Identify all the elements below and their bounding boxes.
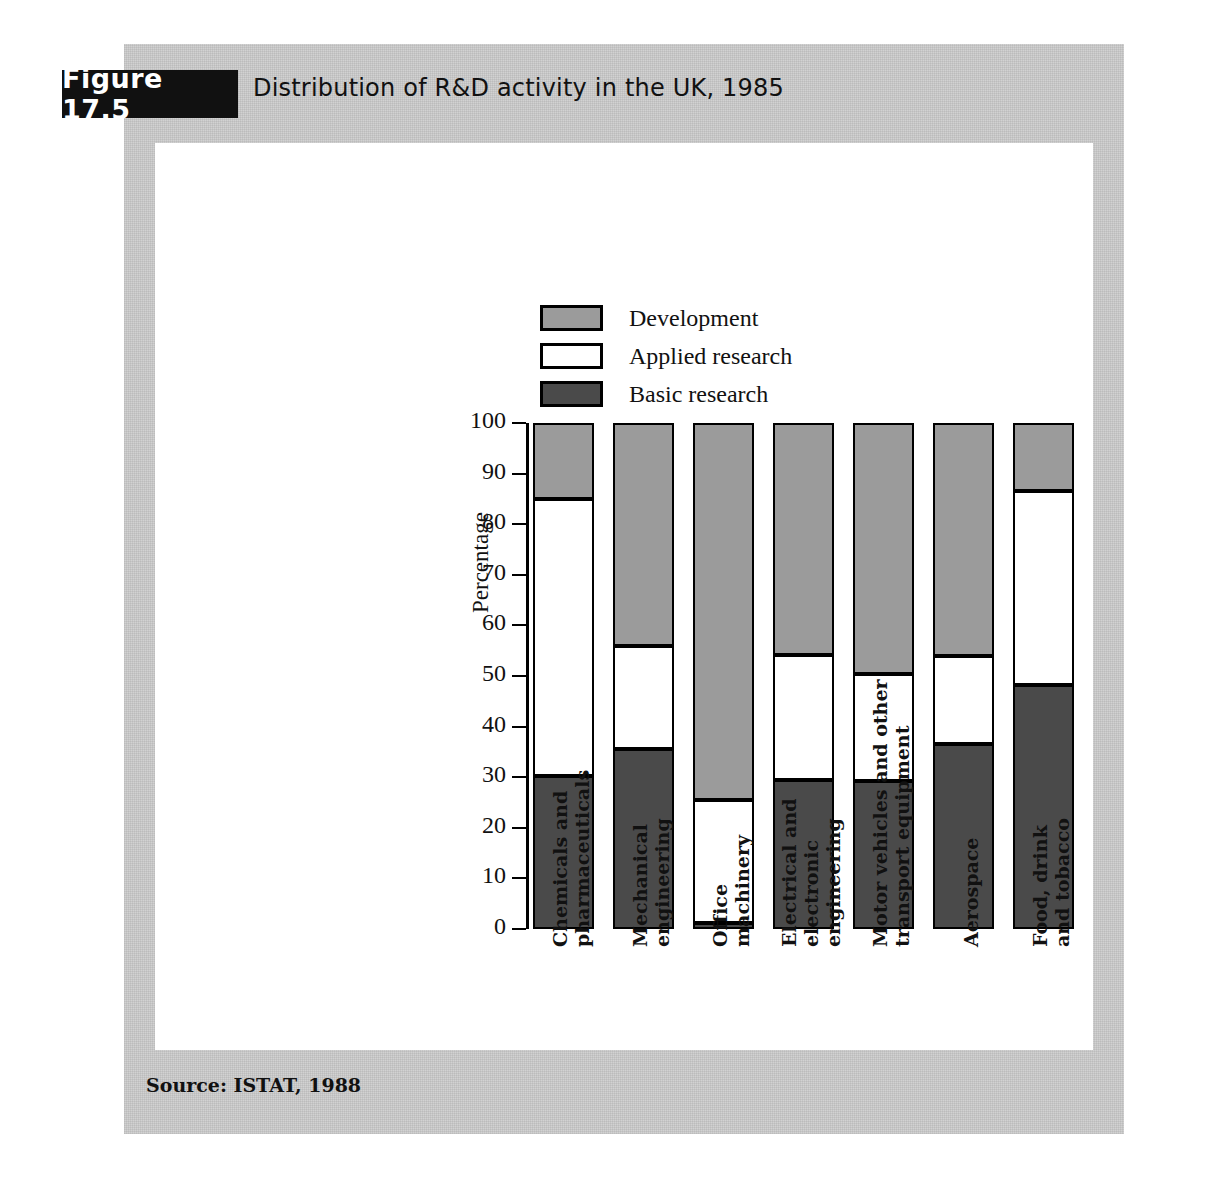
y-axis-line [526, 423, 529, 929]
y-tick-label: 10 [450, 862, 506, 889]
bar-segment-applied-research[interactable] [933, 656, 994, 745]
bar-segment-development[interactable] [533, 423, 594, 499]
figure-number-badge: Figure 17.5 [62, 70, 238, 118]
bar-segment-development[interactable] [1013, 423, 1074, 491]
y-tick-mark [512, 726, 526, 728]
y-tick-mark [512, 928, 526, 930]
y-tick-mark [512, 523, 526, 525]
y-tick-label: 60 [450, 609, 506, 636]
y-tick-mark [512, 422, 526, 424]
chart-card: Development Applied research Basic resea… [155, 143, 1093, 1050]
y-tick-label: 40 [450, 711, 506, 738]
x-axis-label: Motor vehicles and othertransport equipm… [870, 679, 914, 947]
x-axis-label-line: pharmaceuticals [571, 770, 593, 947]
x-axis-label-line: Chemicals and [550, 770, 572, 947]
x-axis-label: Electrical andelectronicengineering [779, 799, 845, 947]
y-tick-label: 50 [450, 660, 506, 687]
bar-segment-development[interactable] [613, 423, 674, 646]
x-axis-label-line: Electrical and [779, 799, 801, 947]
y-tick-label: 30 [450, 761, 506, 788]
bar-segment-development[interactable] [853, 423, 914, 674]
x-axis-label-line: Office [710, 835, 732, 947]
y-tick-mark [512, 624, 526, 626]
x-axis-label: Aerospace [961, 838, 983, 947]
x-axis-label: Chemicals andpharmaceuticals [550, 770, 594, 947]
x-axis-label-line: Food, drink [1030, 818, 1052, 947]
y-tick-mark [512, 827, 526, 829]
y-tick-label: 90 [450, 458, 506, 485]
y-tick-label: 70 [450, 559, 506, 586]
x-axis-label-line: transport equipment [891, 679, 913, 947]
x-axis-label-line: and tobacco [1051, 818, 1073, 947]
x-axis-label-line: electronic [800, 799, 822, 947]
bar-segment-applied-research[interactable] [613, 646, 674, 750]
x-axis-label-line: Mechanical [630, 818, 652, 947]
bar-segment-development[interactable] [693, 423, 754, 800]
figure-page: Figure 17.5 Distribution of R&D activity… [0, 0, 1217, 1182]
y-tick-label: 80 [450, 508, 506, 535]
x-axis-label: Officemachinery [710, 835, 754, 947]
y-tick-mark [512, 776, 526, 778]
y-tick-mark [512, 675, 526, 677]
y-tick-mark [512, 877, 526, 879]
y-tick-mark [512, 473, 526, 475]
bar-segment-applied-research[interactable] [533, 499, 594, 776]
bar-segment-applied-research[interactable] [1013, 491, 1074, 685]
bar-segment-applied-research[interactable] [773, 655, 834, 780]
x-axis-label-line: Motor vehicles and other [870, 679, 892, 947]
figure-title: Distribution of R&D activity in the UK, … [253, 74, 784, 102]
y-tick-mark [512, 574, 526, 576]
bar-segment-development[interactable] [933, 423, 994, 656]
y-tick-label: 0 [450, 913, 506, 940]
y-tick-label: 100 [450, 407, 506, 434]
x-axis-label-line: machinery [731, 835, 753, 947]
bar-segment-development[interactable] [773, 423, 834, 655]
figure-source: Source: ISTAT, 1988 [146, 1074, 361, 1096]
y-tick-label: 20 [450, 812, 506, 839]
x-axis-label-line: Aerospace [961, 838, 983, 947]
x-axis-label-line: engineering [651, 818, 673, 947]
x-axis-label: Food, drinkand tobacco [1030, 818, 1074, 947]
x-axis-label-line: engineering [822, 799, 844, 947]
x-axis-label: Mechanicalengineering [630, 818, 674, 947]
plot-area: Percentage 0102030405060708090100 Chemic… [155, 143, 1093, 1050]
